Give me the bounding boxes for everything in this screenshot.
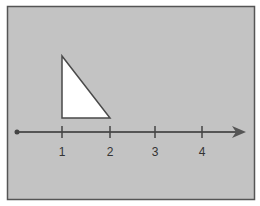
tick-label-2: 2 <box>107 145 114 159</box>
tick-label-4: 4 <box>199 145 206 159</box>
number-line-diagram: 1 2 3 4 <box>0 0 260 206</box>
origin-dot <box>15 130 20 135</box>
tick-label-3: 3 <box>152 145 159 159</box>
tick-label-1: 1 <box>59 145 66 159</box>
diagram-frame <box>8 7 255 200</box>
